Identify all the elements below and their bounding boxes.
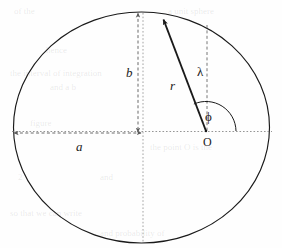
ellipse-diagram-svg <box>0 0 282 248</box>
label-radius: r <box>170 79 175 92</box>
label-semi-major-axis: a <box>76 140 83 153</box>
label-phi: ϕ <box>205 110 212 123</box>
label-semi-minor-axis: b <box>126 66 133 79</box>
ellipse-point-marker <box>205 130 207 132</box>
ellipse-outline <box>14 12 270 243</box>
label-lambda: λ <box>197 65 203 78</box>
label-origin: O <box>203 136 212 148</box>
figure-container: of thea unit spherehencethe interval of … <box>0 0 282 248</box>
